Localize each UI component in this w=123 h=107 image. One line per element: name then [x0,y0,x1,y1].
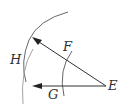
label-g: G [48,88,58,101]
label-h: H [10,53,21,66]
geometry-diagram: F G H E [0,0,123,107]
arrowhead-lower [32,83,42,89]
label-f: F [63,40,72,53]
label-e: E [108,79,118,92]
arrowhead-upper [32,37,42,45]
